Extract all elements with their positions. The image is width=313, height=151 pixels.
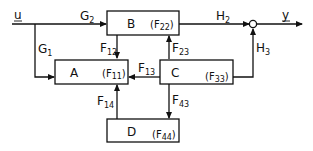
edge-label-f14: F14 [97, 94, 114, 110]
block-b: B (F22) [107, 11, 179, 35]
edge-label-h3: H3 [256, 41, 270, 57]
edge-c-to-sum [233, 29, 253, 77]
edge-label-h2: H2 [216, 9, 230, 25]
block-d: D (F44) [107, 119, 179, 142]
block-d-label: D [127, 125, 136, 139]
block-b-label: B [127, 17, 135, 31]
block-a: A (F11) [55, 60, 128, 84]
block-a-label: A [70, 66, 79, 80]
summing-junction [249, 20, 256, 27]
block-diagram: u G2 G1 B (F22) F12 F23 H2 y H3 A (F11) [0, 0, 313, 151]
edge-label-f12: F12 [100, 41, 117, 57]
block-c-label: C [171, 66, 179, 80]
edge-label-f43: F43 [172, 93, 189, 109]
edge-label-f23: F23 [172, 41, 189, 57]
edge-label-g2: G2 [80, 9, 94, 25]
output-label-y: y [282, 8, 289, 22]
block-c: C (F33) [160, 60, 233, 84]
edge-label-f13: F13 [138, 61, 155, 77]
input-label-u: u [14, 8, 22, 22]
edge-label-g1: G1 [38, 42, 52, 58]
